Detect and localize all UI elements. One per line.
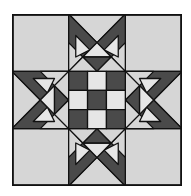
corner-square — [125, 129, 182, 186]
ninepatch-cell — [106, 71, 125, 90]
ninepatch-cell — [106, 90, 125, 109]
corner-square — [12, 14, 69, 71]
corner-square — [12, 129, 69, 186]
ninepatch-cell — [88, 71, 107, 90]
ninepatch-cell — [69, 90, 88, 109]
corner-square — [125, 14, 182, 71]
ninepatch-cell — [88, 110, 107, 129]
ninepatch-cell — [69, 110, 88, 129]
ninepatch-cell — [88, 90, 107, 109]
ninepatch-cell — [69, 71, 88, 90]
quilt-block — [12, 14, 182, 186]
quilt-block-svg — [12, 14, 182, 186]
ninepatch-cell — [106, 110, 125, 129]
center-ninepatch — [69, 71, 126, 128]
